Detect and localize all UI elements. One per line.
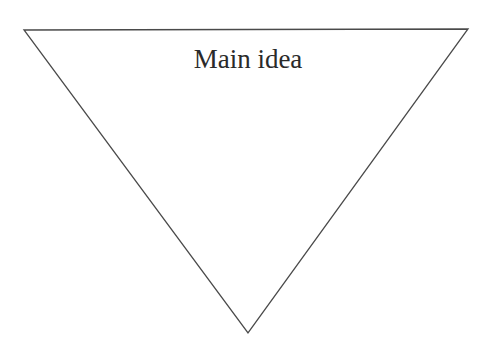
inverted-triangle-diagram: Main idea (0, 0, 482, 356)
main-idea-label: Main idea (194, 44, 303, 74)
inverted-triangle-shape (24, 29, 468, 333)
